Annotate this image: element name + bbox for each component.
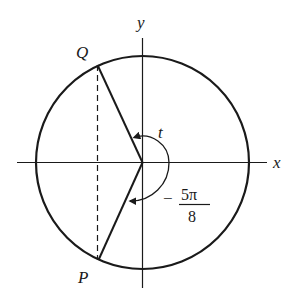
point-q-label: Q <box>76 43 88 62</box>
segment-origin-q <box>98 65 143 163</box>
segment-origin-p <box>99 163 143 261</box>
angle-denominator: 8 <box>188 208 196 225</box>
angle-numerator: 5π <box>181 186 197 203</box>
point-p-label: P <box>77 268 88 287</box>
angle-t-label: t <box>158 123 164 142</box>
angle-t-arc <box>134 136 169 162</box>
angle-neg-sign: − <box>163 189 173 208</box>
unit-circle-diagram: x y Q P t − 5π 8 <box>0 0 293 292</box>
x-axis-label: x <box>272 153 281 172</box>
y-axis-label: y <box>135 13 145 32</box>
